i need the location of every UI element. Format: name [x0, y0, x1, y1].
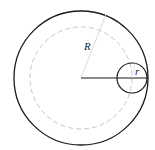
- label-small-radius: r: [135, 65, 140, 77]
- label-big-radius: R: [83, 40, 91, 52]
- rolling-circle-diagram: R r: [0, 0, 155, 150]
